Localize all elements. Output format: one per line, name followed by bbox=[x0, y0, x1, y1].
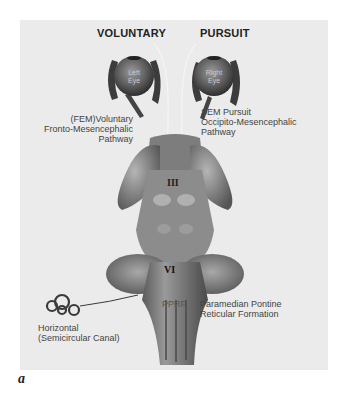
sem-pathway-label: SEM Pursuit Occipito-Mesencephalic Pathw… bbox=[201, 107, 297, 137]
pursuit-heading: PURSUIT bbox=[200, 27, 250, 39]
left-eye-icon bbox=[108, 56, 161, 118]
pprf-label: Paramedian Pontine Reticular Formation bbox=[200, 299, 282, 319]
voluntary-heading: VOLUNTARY bbox=[97, 27, 166, 39]
figure-label: a bbox=[18, 371, 25, 387]
right-eye-label: Right Eye bbox=[202, 69, 226, 85]
semicircular-canal-icon bbox=[47, 295, 79, 315]
semicircular-canal-label: Horizontal (Semicircular Canal) bbox=[38, 323, 120, 343]
cranial-nerve-iii-label: III bbox=[167, 177, 179, 188]
cranial-nerve-vi-label: VI bbox=[164, 264, 175, 275]
fem-pathway-label: (FEM)Voluntary Fronto-Mesencephalic Path… bbox=[22, 114, 133, 144]
pprf-abbrev-label: PPRF bbox=[162, 299, 186, 309]
left-eye-label: Left Eye bbox=[122, 69, 146, 85]
